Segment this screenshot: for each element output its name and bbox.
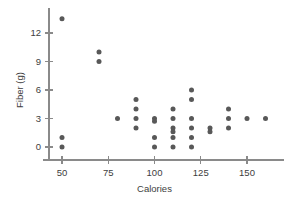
data-point: 100 cal, 2.7 g [152,119,157,124]
data-point: 50 cal, 1 g [60,135,65,140]
data-point: 110 cal, 4 g [171,107,176,112]
data-point: 120 cal, 1 g [189,135,194,140]
data-point: 100 cal, 0 g [152,145,157,150]
data-point: 120 cal, 2 g [189,126,194,131]
data-point: 140 cal, 4 g [226,107,231,112]
data-point: 90 cal, 2 g [134,126,139,131]
data-point: 140 cal, 2 g [226,126,231,131]
data-point: 140 cal, 3 g [226,116,231,121]
data-point: 90 cal, 4 g [134,107,139,112]
y-tick-label-9: 9 [36,56,41,67]
data-point: 110 cal, 1 g [171,135,176,140]
data-point: 120 cal, 0 g [189,145,194,150]
x-axis-title: Calories [137,183,172,194]
y-tick-label-0: 0 [36,141,41,152]
y-axis-title: Fiber (g) [14,72,25,108]
axes [43,8,284,160]
x-tick-label-75: 75 [103,167,114,178]
data-point: 50 cal, 0 g [60,145,65,150]
data-point: 160 cal, 3 g [263,116,268,121]
data-point: 50 cal, 13.5 g [60,16,65,21]
data-point: 130 cal, 1.6 g [208,129,213,134]
y-tick-label-6: 6 [36,84,41,95]
data-point: 150 cal, 3 g [245,116,250,121]
data-point: 90 cal, 5 g [134,97,139,102]
axis-ticks [45,33,247,164]
data-point: 120 cal, 5 g [189,97,194,102]
data-point: 110 cal, 3 g [171,116,176,121]
y-tick-label-12: 12 [30,27,41,38]
data-point: 90 cal, 3 g [134,116,139,121]
data-point: 120 cal, 3 g [189,116,194,121]
data-point: 110 cal, 1.6 g [171,129,176,134]
x-tick-label-50: 50 [57,167,68,178]
data-points: 50 cal, 13.5 g50 cal, 1 g50 cal, 0 g70 c… [60,16,269,149]
data-point: 100 cal, 1 g [152,135,157,140]
axis-tick-labels: 0369125075100125150 [30,27,255,178]
scatterplot-figure: 0369125075100125150 50 cal, 13.5 g50 cal… [0,0,297,204]
x-tick-label-100: 100 [147,167,163,178]
data-point: 110 cal, 0 g [171,145,176,150]
x-tick-label-150: 150 [239,167,255,178]
data-point: 70 cal, 9 g [97,59,102,64]
chart-canvas: 0369125075100125150 50 cal, 13.5 g50 cal… [0,0,297,204]
data-point: 120 cal, 6 g [189,88,194,93]
data-point: 80 cal, 3 g [115,116,120,121]
x-tick-label-125: 125 [193,167,209,178]
y-tick-label-3: 3 [36,113,41,124]
data-point: 70 cal, 10 g [97,50,102,55]
